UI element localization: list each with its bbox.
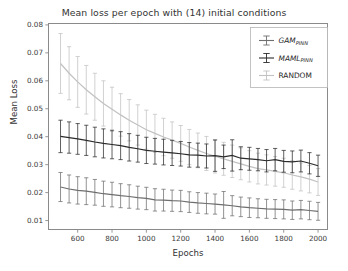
x-tick-label: 1000 <box>137 234 156 243</box>
y-tick-label: 0.04 <box>27 132 43 141</box>
y-axis-ticks: 0.010.020.030.040.050.060.070.08 <box>27 20 49 225</box>
x-tick-label: 1200 <box>172 234 191 243</box>
y-tick-label: 0.02 <box>27 188 43 197</box>
x-axis-ticks: 600800100012001400160018002000 <box>71 230 328 244</box>
chart-legend[interactable]: GAMPINNMAMLPINNRANDOM <box>251 28 328 88</box>
y-tick-label: 0.03 <box>27 160 43 169</box>
x-tick-label: 2000 <box>309 234 328 243</box>
x-tick-label: 1800 <box>275 234 294 243</box>
x-tick-label: 800 <box>105 234 119 243</box>
legend-item-random[interactable]: RANDOM <box>259 71 312 80</box>
y-tick-label: 0.06 <box>27 76 43 85</box>
figure: Mean loss per epoch with (14) initial co… <box>0 0 348 271</box>
x-tick-label: 1600 <box>240 234 259 243</box>
x-tick-label: 1400 <box>206 234 225 243</box>
y-axis-label: Mean Loss <box>9 62 19 142</box>
x-tick-label: 600 <box>71 234 85 243</box>
y-tick-label: 0.07 <box>27 48 43 57</box>
y-tick-label: 0.05 <box>27 104 43 113</box>
y-tick-label: 0.08 <box>27 20 43 29</box>
legend-label: RANDOM <box>279 71 312 80</box>
x-axis-label: Epochs <box>48 248 328 258</box>
y-tick-label: 0.01 <box>27 216 43 225</box>
plot-canvas: 600800100012001400160018002000 0.010.020… <box>0 0 348 271</box>
